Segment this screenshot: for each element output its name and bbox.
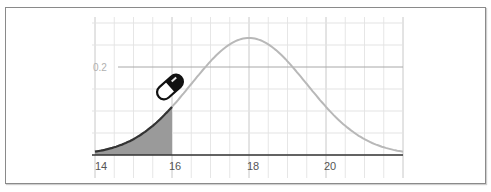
x-tick-label-16: 16 xyxy=(169,160,181,172)
x-tick-label-14: 14 xyxy=(95,160,107,172)
y-tick-label-0.2: 0.2 xyxy=(93,62,107,73)
x-tick-label-20: 20 xyxy=(324,160,336,172)
normal-distribution-chart: 0.2 14 16 18 20 xyxy=(0,0,491,192)
x-tick-label-18: 18 xyxy=(247,160,259,172)
